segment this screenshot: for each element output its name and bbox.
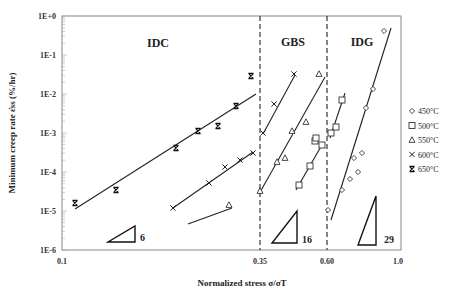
square-marker: [409, 123, 415, 129]
slope-triangle-29: [358, 196, 376, 245]
x-tick-1.0: 1.0: [393, 257, 403, 266]
region-label-idg: IDG: [351, 35, 374, 49]
square-marker: [296, 182, 302, 188]
fit-line: [263, 75, 295, 134]
hourglass-marker: [215, 123, 220, 128]
square-marker: [313, 135, 319, 141]
legend-item-label: 450°C: [418, 107, 439, 116]
diamond-marker: [347, 176, 352, 181]
creep-rate-chart: 1E+0 1E-1 1E-2 1E-3 1E-4 1E-5 1E-6 0.1 0…: [0, 0, 452, 296]
y-tick-1e0: 1E+0: [38, 12, 56, 21]
hourglass-marker: [113, 187, 118, 192]
legend: 450°C500°C550°C600°C650°C: [409, 107, 439, 174]
legend-item-label: 500°C: [418, 122, 439, 131]
diamond-marker: [359, 150, 364, 155]
diamond-marker: [355, 169, 360, 174]
y-tick-1e-4: 1E-4: [40, 168, 56, 177]
hourglass-marker: [248, 73, 253, 78]
x-marker: [206, 180, 211, 185]
hourglass-marker: [409, 166, 414, 171]
region-label-idc: IDC: [147, 36, 169, 50]
triangle-marker: [289, 128, 295, 134]
hourglass-marker: [195, 128, 200, 133]
square-marker: [319, 142, 325, 148]
x-marker: [260, 130, 265, 135]
x-tick-0.60: 0.60: [320, 257, 334, 266]
hourglass-marker: [72, 200, 77, 205]
x-tick-0.35: 0.35: [253, 257, 267, 266]
region-label-gbs: GBS: [281, 35, 305, 49]
x-marker: [271, 101, 276, 106]
y-tick-1e-2: 1E-2: [40, 90, 56, 99]
y-tick-1e-1: 1E-1: [40, 51, 56, 60]
triangle-marker: [409, 137, 415, 143]
fit-line: [188, 208, 232, 224]
legend-item-label: 600°C: [418, 151, 439, 160]
slope-triangle-6: [108, 226, 135, 242]
fit-line: [75, 94, 256, 209]
square-marker: [307, 163, 313, 169]
hourglass-marker: [173, 145, 178, 150]
x-tick-0.1: 0.1: [57, 257, 67, 266]
triangle-marker: [316, 71, 322, 77]
diamond-marker: [325, 207, 330, 212]
y-axis-minor-ticks: [62, 18, 67, 250]
y-tick-1e-6: 1E-6: [40, 246, 56, 255]
diamond-marker: [409, 108, 414, 113]
x-marker: [170, 205, 175, 210]
slope-label-16: 16: [302, 234, 312, 245]
square-marker: [339, 97, 345, 103]
x-marker: [409, 152, 414, 157]
slope-triangle-16: [272, 211, 297, 243]
x-marker: [222, 164, 227, 169]
slope-label-29: 29: [384, 234, 394, 245]
triangle-marker: [226, 202, 232, 208]
plot-frame: [62, 16, 401, 250]
y-tick-1e-5: 1E-5: [40, 207, 56, 216]
triangle-marker: [282, 155, 288, 161]
legend-item-label: 550°C: [418, 136, 439, 145]
data-markers: [72, 28, 386, 212]
square-marker: [328, 130, 334, 136]
diamond-marker: [363, 105, 368, 110]
triangle-marker: [303, 119, 309, 125]
slope-label-6: 6: [140, 232, 145, 243]
legend-item-label: 650°C: [418, 165, 439, 174]
fit-lines: [75, 28, 391, 224]
diamond-marker: [381, 28, 386, 33]
y-tick-1e-3: 1E-3: [40, 129, 56, 138]
square-marker: [333, 124, 339, 130]
x-axis-title: Normalized stress σ/σT: [197, 278, 286, 288]
diamond-marker: [351, 155, 356, 160]
triangle-marker: [274, 159, 280, 165]
y-axis-title: Minimum creep rate ε̇ss (%/hr): [7, 72, 17, 193]
